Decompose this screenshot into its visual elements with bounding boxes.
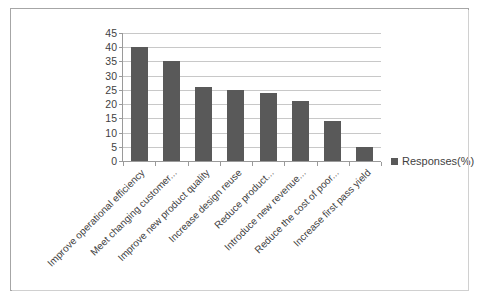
legend-entry-label: Responses(%)	[402, 155, 474, 167]
category-axis-tick	[123, 162, 124, 166]
value-axis-tick-label: 20	[105, 99, 117, 109]
legend-color-swatch	[391, 158, 398, 165]
gridline	[123, 90, 381, 91]
bar[interactable]	[260, 93, 277, 161]
value-axis-tick	[119, 147, 123, 148]
category-axis-tick-label: Reduce the cost of poor...	[191, 167, 340, 304]
bar[interactable]	[131, 47, 148, 161]
bar[interactable]	[324, 121, 341, 161]
category-axis-tick	[188, 162, 189, 166]
value-axis-labels: 454035302520151050	[83, 33, 117, 161]
value-axis-tick	[119, 61, 123, 62]
gridline	[123, 33, 381, 34]
bar[interactable]	[227, 90, 244, 161]
bar[interactable]	[292, 101, 309, 161]
category-axis-tick	[349, 162, 350, 166]
value-axis-tick	[119, 33, 123, 34]
gridline	[123, 147, 381, 148]
category-axis-tick-label: Increase first pass yield	[223, 167, 372, 304]
value-axis-tick-label: 0	[111, 156, 117, 166]
value-axis-tick-label: 5	[111, 142, 117, 152]
bar[interactable]	[195, 87, 212, 161]
category-axis-tick	[284, 162, 285, 166]
value-axis-tick	[119, 133, 123, 134]
value-axis-tick-label: 15	[105, 113, 117, 123]
category-axis-tick	[220, 162, 221, 166]
value-axis-tick	[119, 47, 123, 48]
category-axis-tick-label: Increase design reuse	[94, 167, 243, 304]
value-axis-tick-label: 10	[105, 128, 117, 138]
value-axis-tick	[119, 76, 123, 77]
value-axis-tick	[119, 118, 123, 119]
gridline	[123, 61, 381, 62]
value-axis-tick-label: 30	[105, 71, 117, 81]
category-axis-tick	[317, 162, 318, 166]
category-axis-tick-label: Improve operational efficiency	[0, 167, 147, 304]
category-axis-tick	[252, 162, 253, 166]
category-axis-tick	[381, 162, 382, 166]
gridline	[123, 118, 381, 119]
gridline	[123, 133, 381, 134]
plot-area	[123, 33, 381, 161]
category-axis-tick	[155, 162, 156, 166]
gridline	[123, 76, 381, 77]
value-axis-tick-label: 35	[105, 56, 117, 66]
gridline	[123, 104, 381, 105]
value-axis-tick	[119, 104, 123, 105]
bar[interactable]	[356, 147, 373, 161]
value-axis-tick	[119, 90, 123, 91]
category-axis-tick-label: Reduce product...	[127, 167, 276, 304]
bar[interactable]	[163, 61, 180, 161]
category-axis-tick-label: Improve new product quality	[62, 167, 211, 304]
chart-frame: 454035302520151050 Improve operational e…	[10, 8, 469, 291]
gridline	[123, 47, 381, 48]
category-axis-tick-label: Meet changing customer...	[30, 167, 179, 304]
chart-legend: Responses(%)	[391, 155, 474, 167]
value-axis-tick-label: 25	[105, 85, 117, 95]
value-axis-tick-label: 40	[105, 42, 117, 52]
category-axis-tick-label: Introduce new revenue...	[159, 167, 308, 304]
value-axis-tick-label: 45	[105, 28, 117, 38]
